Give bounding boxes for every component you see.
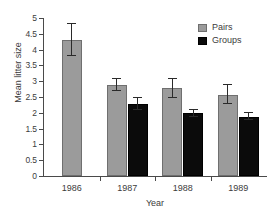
- y-axis-tick: [39, 34, 43, 35]
- x-axis-tick-label: 1986: [44, 184, 100, 193]
- bar-chart-figure: Mean litter size 00.511.522.533.544.55 1…: [0, 0, 280, 221]
- x-axis-tick: [100, 177, 101, 181]
- y-axis-tick: [39, 65, 43, 66]
- y-axis-tick-label: 2.5: [25, 93, 37, 102]
- x-axis-tick: [211, 177, 212, 181]
- error-bar-pairs-1988: [162, 18, 182, 176]
- x-axis-tick-label: 1987: [99, 184, 155, 193]
- error-bar-pairs-1987: [107, 18, 127, 176]
- legend-item-pairs: Pairs: [198, 22, 242, 33]
- x-axis-tick-label: 1989: [210, 184, 266, 193]
- y-axis-tick: [39, 81, 43, 82]
- chart-legend: Pairs Groups: [198, 22, 242, 48]
- error-bar-cap-lower: [244, 119, 253, 120]
- y-axis-tick: [39, 113, 43, 114]
- error-bar-cap-lower: [133, 109, 142, 110]
- y-axis-tick-label: 0.5: [25, 156, 37, 165]
- error-bar-cap-upper: [67, 23, 76, 24]
- y-axis-tick-label: 2: [32, 109, 37, 118]
- y-axis-tick-label: 4.5: [25, 30, 37, 39]
- y-axis-tick: [39, 160, 43, 161]
- y-axis-tick: [39, 97, 43, 98]
- error-bar-line: [172, 79, 173, 98]
- error-bar-cap-upper: [244, 112, 253, 113]
- error-bar-cap-lower: [168, 97, 177, 98]
- y-axis-tick-label: 5: [32, 14, 37, 23]
- legend-label-pairs: Pairs: [212, 23, 233, 32]
- error-bar-cap-upper: [112, 78, 121, 79]
- error-bar-cap-lower: [223, 103, 232, 104]
- legend-swatch-pairs-icon: [198, 24, 207, 32]
- error-bar-cap-lower: [189, 116, 198, 117]
- error-bar-cap-upper: [223, 84, 232, 85]
- x-axis-title: Year: [43, 199, 267, 208]
- y-axis-tick: [39, 176, 43, 177]
- x-axis-tick-label: 1988: [155, 184, 211, 193]
- error-bar-cap-lower: [112, 90, 121, 91]
- legend-swatch-groups-icon: [198, 37, 207, 45]
- y-axis-tick-label: 1.5: [25, 125, 37, 134]
- y-axis-title: Mean litter size: [14, 23, 23, 123]
- y-axis-tick-label: 0: [32, 172, 37, 181]
- y-axis-tick-label: 4: [32, 46, 37, 55]
- x-axis-tick: [155, 177, 156, 181]
- error-bar-line: [227, 85, 228, 104]
- legend-label-groups: Groups: [212, 36, 242, 45]
- y-axis-tick: [39, 50, 43, 51]
- error-bar-cap-lower: [67, 55, 76, 56]
- error-bar-line: [71, 24, 72, 56]
- y-axis-tick-label: 1: [32, 140, 37, 149]
- y-axis-tick: [39, 129, 43, 130]
- y-axis-tick: [39, 18, 43, 19]
- y-axis-tick: [39, 144, 43, 145]
- error-bar-pairs-1986: [62, 18, 82, 176]
- error-bar-groups-1987: [128, 18, 148, 176]
- y-axis-tick-label: 3.5: [25, 61, 37, 70]
- error-bar-cap-upper: [189, 109, 198, 110]
- error-bar-cap-upper: [133, 97, 142, 98]
- y-axis-tick-label: 3: [32, 77, 37, 86]
- legend-item-groups: Groups: [198, 35, 242, 46]
- error-bar-cap-upper: [168, 78, 177, 79]
